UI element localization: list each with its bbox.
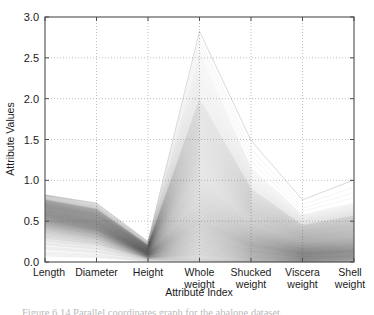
x-axis-title: Attribute Index bbox=[165, 286, 233, 298]
x-category-label: Height bbox=[133, 266, 163, 278]
y-tick-label: 2.5 bbox=[24, 52, 39, 64]
x-category-label: Whole bbox=[185, 266, 215, 278]
x-category-label: Shell bbox=[338, 266, 361, 278]
y-axis-title: Attribute Values bbox=[4, 102, 16, 175]
y-tick-label: 0.5 bbox=[24, 215, 39, 227]
parallel-coordinates-chart: 0.00.51.01.52.02.53.0 LengthDiameterHeig… bbox=[0, 0, 374, 315]
y-tick-label: 3.0 bbox=[24, 11, 39, 23]
x-category-label: Shucked bbox=[231, 266, 272, 278]
x-category-label: weight bbox=[286, 278, 317, 290]
y-axis-tick-labels: 0.00.51.01.52.02.53.0 bbox=[24, 11, 39, 268]
x-category-label: weight bbox=[235, 278, 266, 290]
x-category-label: Length bbox=[33, 266, 65, 278]
x-category-label: Viscera bbox=[285, 266, 320, 278]
x-category-label: Diameter bbox=[75, 266, 118, 278]
y-tick-label: 1.5 bbox=[24, 134, 39, 146]
y-tick-label: 1.0 bbox=[24, 174, 39, 186]
figure-caption: Figure 6.14 Parallel coordinates graph f… bbox=[0, 306, 374, 315]
figure-container: 0.00.51.01.52.02.53.0 LengthDiameterHeig… bbox=[0, 0, 374, 315]
y-tick-label: 2.0 bbox=[24, 93, 39, 105]
x-category-label: weight bbox=[334, 278, 365, 290]
